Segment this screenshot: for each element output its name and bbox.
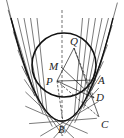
segment-PA <box>57 80 96 81</box>
label-B: B <box>58 123 65 135</box>
label-Q: Q <box>70 35 78 47</box>
geometry-diagram: QMPADBC <box>0 0 124 138</box>
tangent-line <box>3 0 19 51</box>
fold-line <box>24 18 39 100</box>
label-P: P <box>45 75 53 87</box>
label-D: D <box>95 91 104 103</box>
segment-QP <box>57 48 74 81</box>
label-A: A <box>97 74 105 86</box>
label-M: M <box>48 60 59 72</box>
label-C: C <box>101 118 109 130</box>
fold-line <box>74 18 82 115</box>
